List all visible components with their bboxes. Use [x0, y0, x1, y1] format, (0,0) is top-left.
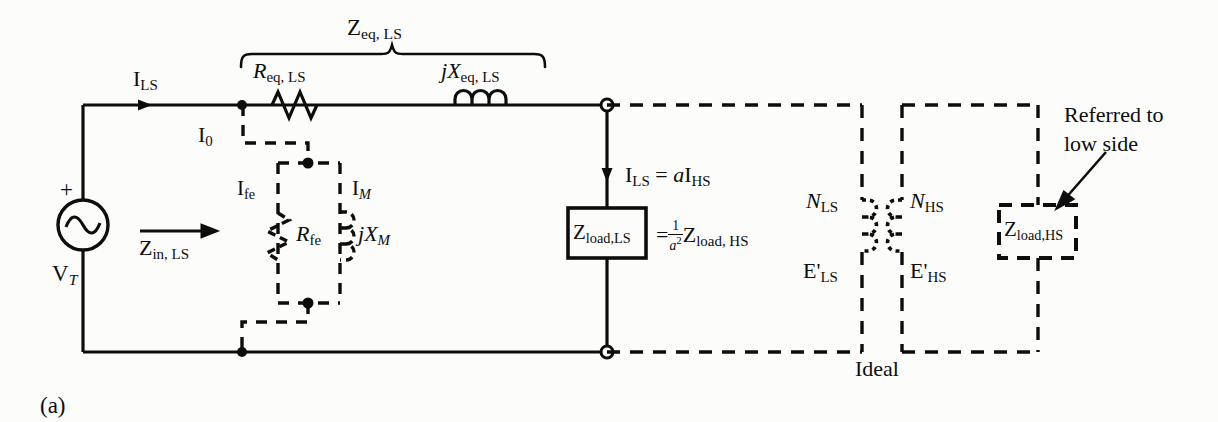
ideal-transformer-label: Ideal	[855, 358, 899, 380]
magnetizing-inductor-icon	[340, 212, 354, 260]
turns-hs-label: NHS	[910, 190, 944, 212]
series-impedance-label: Zeq, LS	[347, 16, 402, 39]
load-referral-equation-label: =1a2Zload, HS	[656, 220, 748, 253]
referred-annotation-line2: low side	[1064, 133, 1138, 155]
exciting-current-label: I0	[198, 124, 213, 146]
turns-ls-label: NLS	[806, 190, 838, 212]
figure-caption: (a)	[40, 394, 66, 417]
source-polarity-label: +	[60, 178, 73, 201]
exciting-branch-lead-top	[243, 105, 308, 163]
circuit-schematic	[0, 0, 1218, 422]
core-loss-resistance-label: Rfe	[296, 223, 321, 245]
referred-annotation-line1: Referred to	[1064, 104, 1164, 126]
input-impedance-label: Zin, LS	[139, 237, 189, 259]
line-current-label: ILS	[133, 68, 158, 90]
load-impedance-hs-label: Zload,HS	[1004, 219, 1063, 240]
transformer-ls-winding-icon	[862, 200, 877, 251]
load-impedance-ls-label: Zload,LS	[573, 222, 631, 243]
inductor-coil-icon	[455, 91, 506, 106]
magnetizing-reactance-label: jXM	[358, 223, 390, 245]
magnetizing-current-label: IM	[352, 178, 371, 199]
junction-dot-icon	[237, 347, 247, 357]
leader-arrow-icon	[1057, 152, 1106, 208]
junction-dot-icon	[303, 158, 314, 169]
junction-dot-icon	[303, 298, 314, 309]
series-resistance-label: Req, LS	[253, 60, 306, 82]
emf-hs-label: E'HS	[910, 260, 947, 282]
source-voltage-label: VT	[52, 262, 77, 285]
current-arrow-icon	[138, 100, 152, 111]
series-reactance-label: jXeq, LS	[441, 60, 500, 82]
emf-ls-label: E'LS	[803, 260, 838, 282]
transformer-hs-winding-icon	[888, 200, 903, 251]
figure-canvas: VT + ILS I0 Zin, LS Zeq, LS Req, LS jXeq…	[0, 0, 1218, 422]
core-loss-current-label: Ife	[237, 178, 255, 199]
load-current-arrow-icon	[602, 168, 613, 182]
exciting-branch-lead-bottom	[242, 303, 308, 352]
load-current-equation-label: ILS = aIHS	[625, 164, 711, 186]
